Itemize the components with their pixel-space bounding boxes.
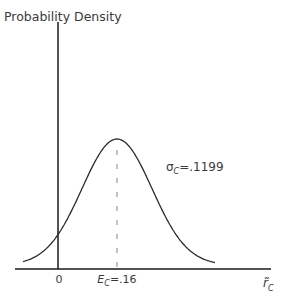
density-chart: Probability Density 0 EC=.16 σC=.1199 r̃… <box>0 0 288 299</box>
x-tick-label-zero: 0 <box>56 273 63 286</box>
y-axis-label: Probability Density <box>4 9 122 24</box>
mean-value: =.16 <box>110 273 137 286</box>
x-axis-label: r̃C <box>263 276 274 293</box>
sigma-value: =.1199 <box>179 160 223 174</box>
x-tick-label-mean: EC=.16 <box>97 273 136 288</box>
sigma-annotation: σC=.1199 <box>166 160 224 176</box>
normal-density-curve <box>23 139 215 263</box>
mean-symbol: E <box>97 273 104 286</box>
x-axis-subscript: C <box>268 284 274 293</box>
